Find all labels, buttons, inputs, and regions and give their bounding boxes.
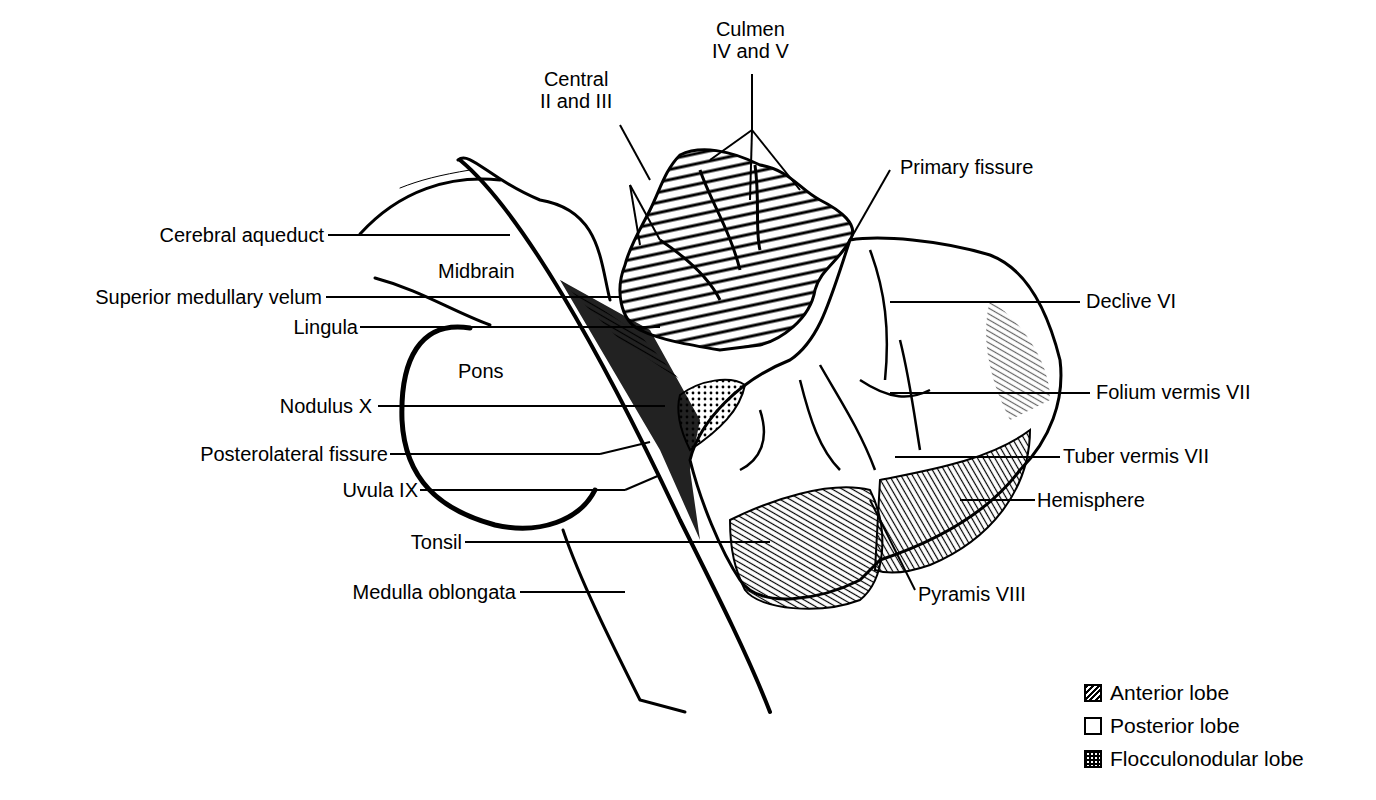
region-midbrain: Midbrain [438,260,515,282]
legend-label: Flocculonodular lobe [1110,747,1304,771]
label-central-line2: II and III [540,90,612,112]
label-culmen-line2: IV and V [712,40,789,62]
blank-swatch-icon [1084,717,1102,735]
label-uvula: Uvula IX [342,479,418,501]
label-hemisphere: Hemisphere [1037,489,1145,511]
label-culmen: Culmen IV and V [712,18,789,62]
legend-label: Anterior lobe [1110,681,1229,705]
label-tuber-vermis: Tuber vermis VII [1063,445,1209,467]
label-folium-vermis: Folium vermis VII [1096,381,1250,403]
legend: Anterior lobe Posterior lobe Flocculonod… [1084,676,1304,775]
region-pons: Pons [458,360,504,382]
label-culmen-line1: Culmen [712,18,789,40]
hatched-swatch-icon [1084,684,1102,702]
label-posterolateral-fissure: Posterolateral fissure [200,443,388,465]
label-cerebral-aqueduct: Cerebral aqueduct [159,224,324,246]
legend-item-flocculonodular-lobe: Flocculonodular lobe [1084,742,1304,775]
legend-item-anterior-lobe: Anterior lobe [1084,676,1304,709]
label-superior-medullary-velum: Superior medullary velum [95,286,322,308]
label-medulla-oblongata: Medulla oblongata [353,581,516,603]
anterior-lobe-shape [620,150,853,350]
label-nodulus: Nodulus X [280,395,372,417]
label-primary-fissure: Primary fissure [900,156,1033,178]
label-declive: Declive VI [1086,290,1176,312]
label-tonsil: Tonsil [411,531,462,553]
legend-label: Posterior lobe [1110,714,1240,738]
label-central: Central II and III [540,68,612,112]
legend-item-posterior-lobe: Posterior lobe [1084,709,1304,742]
label-lingula: Lingula [293,316,358,338]
stippled-swatch-icon [1084,750,1102,768]
label-pyramis: Pyramis VIII [918,583,1026,605]
label-central-line1: Central [540,68,612,90]
